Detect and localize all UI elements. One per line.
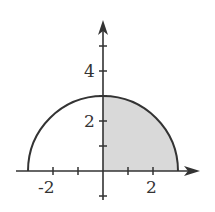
semicircle-diagram: -2 2 2 4 [0, 0, 215, 212]
y-label-2: 2 [84, 111, 95, 131]
shaded-region [103, 96, 178, 171]
diagram-svg: -2 2 2 4 [0, 0, 215, 212]
y-label-4: 4 [84, 61, 95, 81]
x-label-neg2: -2 [38, 177, 55, 197]
x-label-2: 2 [146, 177, 157, 197]
